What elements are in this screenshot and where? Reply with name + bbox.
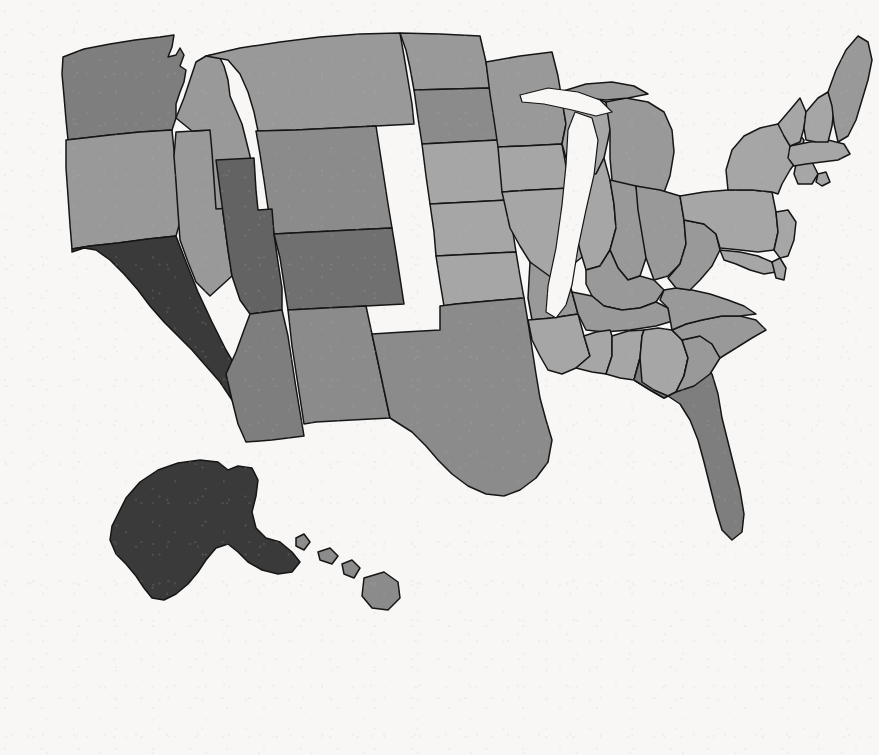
state-washington [62,35,186,140]
state-south-dakota [414,88,498,144]
state-maryland [720,250,776,274]
state-new-mexico [288,306,390,424]
state-oklahoma [436,252,524,306]
state-massachusetts [788,140,850,166]
state-maine [828,36,872,142]
state-rhode-island [816,172,830,186]
state-new-jersey [774,210,796,258]
state-texas [372,298,552,496]
state-nebraska [422,140,508,204]
state-colorado [274,228,404,310]
state-wyoming [256,126,392,234]
state-iowa [498,144,570,192]
state-delaware [772,258,786,280]
state-kansas [430,200,516,256]
state-hawaii [296,534,400,610]
state-alaska [110,460,300,600]
choropleth-map-figure: Number of national parks 02468 [0,0,879,755]
state-north-dakota [400,33,490,90]
state-oregon [66,130,180,249]
map-legend: Number of national parks 02468 [0,650,879,720]
us-states-map [0,0,879,660]
